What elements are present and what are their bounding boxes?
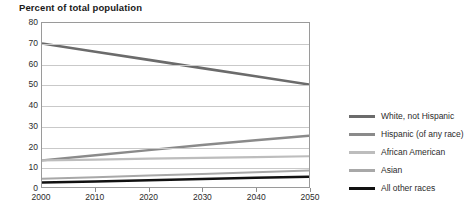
legend-item-label: Asian bbox=[381, 164, 402, 176]
gridline bbox=[42, 65, 309, 66]
gridline bbox=[42, 85, 309, 86]
legend-item-label: White, not Hispanic bbox=[381, 110, 454, 122]
gridline bbox=[42, 148, 309, 149]
gridline bbox=[42, 127, 309, 128]
y-tick-label: 10 bbox=[2, 163, 38, 172]
legend-item[interactable]: White, not Hispanic bbox=[349, 108, 476, 126]
x-tick-mark bbox=[202, 188, 203, 192]
y-tick-label: 60 bbox=[2, 60, 38, 69]
legend-color-swatch bbox=[349, 133, 375, 136]
x-tick-mark bbox=[310, 188, 311, 192]
y-tick-label: 80 bbox=[2, 18, 38, 27]
legend-item[interactable]: Hispanic (of any race) bbox=[349, 126, 476, 144]
chart-screenshot: Percent of total population 807060504030… bbox=[0, 0, 476, 213]
gridline bbox=[42, 106, 309, 107]
gridline bbox=[42, 168, 309, 169]
page-title: Percent of total population bbox=[19, 2, 142, 13]
y-tick-label: 70 bbox=[2, 39, 38, 48]
x-tick-mark bbox=[149, 188, 150, 192]
legend-item-label: All other races bbox=[381, 182, 435, 194]
y-tick-label: 50 bbox=[2, 80, 38, 89]
y-tick-label: 30 bbox=[2, 122, 38, 131]
x-tick-mark bbox=[95, 188, 96, 192]
series-lines bbox=[42, 23, 309, 187]
y-axis: 80706050403020100 bbox=[0, 22, 38, 188]
gridline bbox=[42, 44, 309, 45]
plot-area bbox=[41, 22, 310, 188]
legend-item-label: African American bbox=[381, 146, 445, 158]
y-tick-label: 40 bbox=[2, 101, 38, 110]
legend-item-label: Hispanic (of any race) bbox=[381, 128, 464, 140]
legend-color-swatch bbox=[349, 187, 375, 190]
x-tick-label: 2010 bbox=[70, 193, 120, 202]
x-tick-label: 2030 bbox=[177, 193, 227, 202]
x-tick-mark bbox=[256, 188, 257, 192]
x-tick-label: 2000 bbox=[16, 193, 66, 202]
legend-color-swatch bbox=[349, 169, 375, 172]
legend-item[interactable]: Asian bbox=[349, 162, 476, 180]
legend-color-swatch bbox=[349, 151, 375, 154]
y-tick-label: 20 bbox=[2, 143, 38, 152]
x-axis: 200020102020203020402050 bbox=[41, 193, 310, 207]
x-tick-label: 2020 bbox=[124, 193, 174, 202]
legend: White, not HispanicHispanic (of any race… bbox=[349, 108, 476, 198]
legend-color-swatch bbox=[349, 115, 375, 118]
legend-item[interactable]: All other races bbox=[349, 180, 476, 198]
x-tick-label: 2040 bbox=[231, 193, 281, 202]
series-line bbox=[42, 44, 309, 85]
x-tick-label: 2050 bbox=[285, 193, 335, 202]
legend-item[interactable]: African American bbox=[349, 144, 476, 162]
